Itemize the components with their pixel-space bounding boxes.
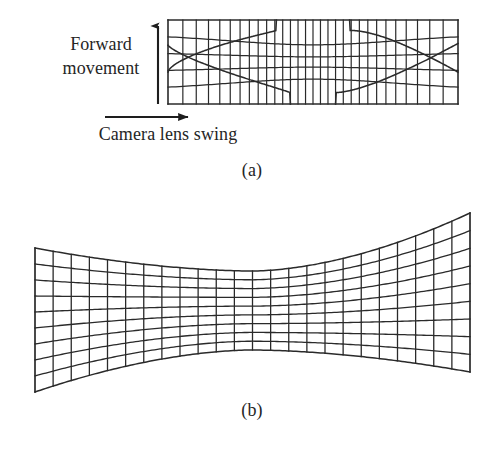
- panel-b-grid: [35, 213, 470, 392]
- figure-root: Forward movement Camera lens swing (a) (…: [0, 0, 497, 452]
- forward-movement-label: Forward movement: [42, 32, 160, 81]
- camera-lens-swing-label: Camera lens swing: [50, 124, 286, 145]
- panel-a-grid: [168, 20, 458, 104]
- caption-b: (b): [207, 400, 297, 421]
- caption-a: (a): [207, 160, 297, 181]
